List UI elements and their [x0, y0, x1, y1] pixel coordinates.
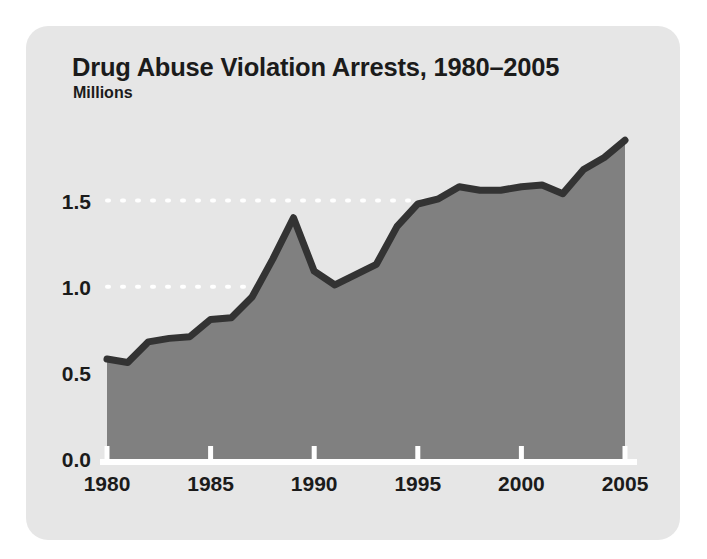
x-tick-label: 2005 [602, 472, 649, 495]
x-tick-label: 1985 [187, 472, 234, 495]
x-tick-label: 2000 [498, 472, 545, 495]
y-tick-label: 0.0 [62, 448, 91, 471]
area-chart: 0.00.51.01.5 198019851990199520002005 [26, 26, 680, 540]
y-tick-label: 1.5 [62, 190, 92, 213]
chart-plot-area: 0.00.51.01.5 198019851990199520002005 [26, 26, 680, 540]
x-tick-label: 1995 [394, 472, 441, 495]
x-tick-label: 1980 [84, 472, 131, 495]
x-tick-label: 1990 [291, 472, 338, 495]
x-axis-tick-labels: 198019851990199520002005 [84, 472, 649, 495]
chart-card: Drug Abuse Violation Arrests, 1980–2005 … [26, 26, 680, 540]
y-tick-label: 1.0 [62, 276, 91, 299]
y-tick-label: 0.5 [62, 362, 92, 385]
y-axis-tick-labels: 0.00.51.01.5 [62, 190, 92, 471]
